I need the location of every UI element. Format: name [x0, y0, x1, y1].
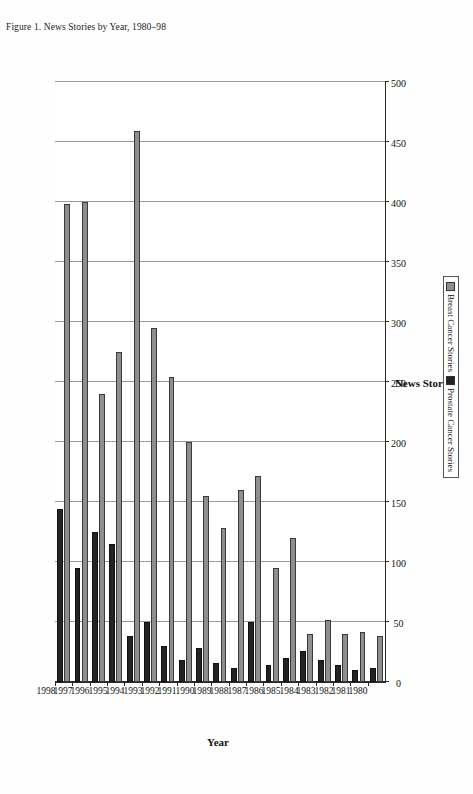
value-axis-label: 0	[381, 678, 415, 689]
bar-prostate-1983	[317, 660, 323, 682]
category-axis-title: Year	[207, 736, 229, 748]
bar-breast-1990	[203, 496, 209, 682]
bar-breast-1983	[324, 620, 330, 682]
gridline	[55, 321, 385, 322]
rotated-chart-region: News Stories Year Breast Cancer StoriesP…	[0, 0, 473, 794]
bar-breast-1991	[185, 442, 191, 682]
bar-prostate-1997	[74, 568, 80, 682]
bar-breast-1989	[220, 528, 226, 682]
bar-prostate-1985	[282, 658, 288, 682]
value-axis-label: 400	[381, 198, 415, 209]
plot-area	[55, 82, 386, 683]
bar-prostate-1993	[144, 622, 150, 682]
bar-breast-1995	[116, 352, 122, 682]
legend-swatch	[446, 282, 455, 291]
bar-prostate-1988	[230, 668, 236, 682]
bar-prostate-1989	[213, 663, 219, 682]
legend-item: Breast Cancer Stories	[446, 282, 456, 372]
value-axis-label: 200	[381, 438, 415, 449]
gridline	[55, 201, 385, 202]
bar-breast-1981	[359, 632, 365, 682]
bar-prostate-1998	[57, 509, 63, 682]
chart: News Stories Year Breast Cancer StoriesP…	[37, 47, 437, 747]
bar-breast-1984	[307, 634, 313, 682]
figure-page: Figure 1. News Stories by Year, 1980–98 …	[0, 0, 473, 794]
bar-breast-1994	[133, 131, 139, 682]
value-axis-label: 300	[381, 318, 415, 329]
bar-prostate-1987	[248, 622, 254, 682]
bar-prostate-1992	[161, 646, 167, 682]
value-axis-label: 100	[381, 558, 415, 569]
bar-prostate-1984	[300, 651, 306, 682]
bar-prostate-1981	[352, 670, 358, 682]
bar-breast-1996	[99, 394, 105, 682]
bar-prostate-1986	[265, 665, 271, 682]
bar-prostate-1982	[335, 665, 341, 682]
gridline	[55, 141, 385, 142]
bar-breast-1987	[255, 476, 261, 682]
bar-breast-1992	[168, 377, 174, 682]
value-axis-label: 50	[381, 618, 415, 629]
gridline	[55, 381, 385, 382]
bar-breast-1985	[290, 538, 296, 682]
bar-prostate-1980	[369, 668, 375, 682]
bar-breast-1988	[237, 490, 243, 682]
value-axis-label: 500	[381, 78, 415, 89]
bar-prostate-1995	[109, 544, 115, 682]
value-axis-label: 350	[381, 258, 415, 269]
bar-prostate-1991	[178, 660, 184, 682]
legend-label: Prostate Cancer Stories	[446, 388, 456, 472]
bar-prostate-1994	[126, 636, 132, 682]
bar-breast-1998	[64, 204, 70, 682]
bar-breast-1997	[81, 202, 87, 682]
bar-breast-1986	[272, 568, 278, 682]
value-axis-label: 250	[381, 378, 415, 389]
bar-breast-1980	[376, 636, 382, 682]
value-axis-label: 150	[381, 498, 415, 509]
bar-prostate-1990	[196, 648, 202, 682]
bar-breast-1993	[151, 328, 157, 682]
value-axis-label: 450	[381, 138, 415, 149]
gridline	[55, 261, 385, 262]
legend-swatch	[446, 376, 455, 385]
bar-prostate-1996	[91, 532, 97, 682]
legend-label: Breast Cancer Stories	[446, 294, 456, 372]
legend-item: Prostate Cancer Stories	[446, 376, 456, 472]
category-axis-label-1998: 1998	[28, 686, 62, 696]
bar-breast-1982	[342, 634, 348, 682]
chart-legend: Breast Cancer StoriesProstate Cancer Sto…	[443, 276, 459, 478]
gridline	[55, 81, 385, 82]
